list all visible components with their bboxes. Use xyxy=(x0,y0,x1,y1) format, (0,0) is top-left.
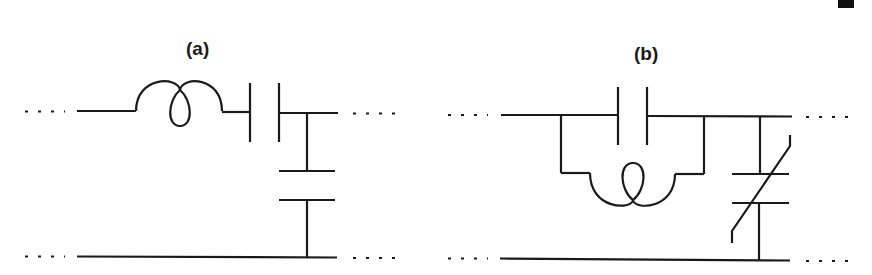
panel-b-label: (b) xyxy=(634,43,658,64)
corner-mark xyxy=(838,0,854,8)
shunt-capacitor-icon xyxy=(279,113,335,257)
variable-capacitor-icon xyxy=(732,116,790,260)
parallel-inductor-icon xyxy=(590,163,675,206)
circuit-diagram: (a) (b) xyxy=(0,0,872,275)
panel-b: (b) xyxy=(448,43,848,261)
series-capacitor-icon xyxy=(250,83,279,142)
wire-bottom xyxy=(500,259,790,261)
panel-a-label: (a) xyxy=(186,38,209,59)
panel-a: (a) xyxy=(25,38,395,258)
wire-top-right xyxy=(647,116,792,117)
wire-bottom xyxy=(77,257,337,258)
inductor-loop xyxy=(170,90,190,126)
parallel-capacitor-icon xyxy=(618,87,647,145)
inductor-arcs xyxy=(136,81,222,111)
